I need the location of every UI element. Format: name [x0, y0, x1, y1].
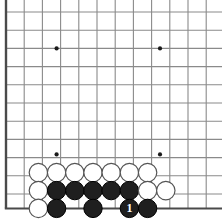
white-stone[interactable] [66, 163, 84, 181]
star-point-lower-right-icon [158, 152, 162, 156]
go-board-diagram: 1 [0, 0, 222, 219]
black-stone[interactable] [84, 181, 102, 199]
black-stone[interactable] [102, 181, 120, 199]
white-stone[interactable] [29, 163, 47, 181]
white-stone[interactable] [102, 163, 120, 181]
black-stone[interactable] [47, 181, 65, 199]
stones-layer [29, 163, 175, 217]
black-stone[interactable] [66, 181, 84, 199]
white-stone[interactable] [138, 181, 156, 199]
white-stone[interactable] [47, 163, 65, 181]
go-board-canvas [0, 0, 222, 219]
black-stone[interactable] [120, 199, 138, 217]
black-stone[interactable] [47, 199, 65, 217]
star-point-upper-right-icon [158, 46, 162, 50]
white-stone[interactable] [84, 163, 102, 181]
white-stone[interactable] [120, 163, 138, 181]
white-stone[interactable] [157, 181, 175, 199]
white-stone[interactable] [29, 181, 47, 199]
star-point-upper-left-icon [55, 46, 59, 50]
star-point-lower-left-icon [55, 152, 59, 156]
black-stone[interactable] [84, 199, 102, 217]
white-stone[interactable] [29, 199, 47, 217]
black-stone[interactable] [120, 181, 138, 199]
white-stone[interactable] [138, 163, 156, 181]
black-stone[interactable] [138, 199, 156, 217]
